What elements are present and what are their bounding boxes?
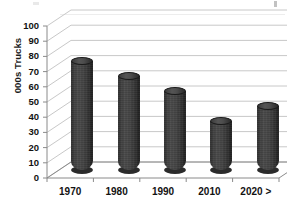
bar-texture [71,61,93,170]
y-tick-label: 40 [13,112,39,122]
plot-area: 1009080706050403020100 19701980199020102… [0,0,287,205]
x-tick-label: 2020 > [230,186,282,197]
bar-texture [257,106,279,170]
chart-container: 000s Trucks 1009080706050403020100 19701… [0,0,287,205]
y-tick-label: 10 [13,158,39,168]
bar-2010 [210,121,232,170]
x-tick-label: 2010 [183,186,235,197]
bar-1970 [71,61,93,170]
bar-top-ellipse [164,87,186,95]
bar-top-ellipse [71,57,93,65]
y-tick-label: 50 [13,97,39,107]
y-tick-label: 0 [13,173,39,183]
bar-1990 [164,91,186,170]
bar-top-ellipse [118,72,140,80]
x-tick-label: 1970 [44,186,96,197]
y-tick-label: 60 [13,82,39,92]
y-tick-label: 90 [13,36,39,46]
bar-1980 [118,76,140,170]
x-tick-label: 1990 [137,186,189,197]
gridline [47,25,287,41]
bar-texture [210,121,232,170]
bar-2020 [257,106,279,170]
gridline [47,10,287,26]
y-tick-label: 20 [13,143,39,153]
y-tick-label: 80 [13,51,39,61]
bar-texture [164,91,186,170]
grid-and-axes [0,0,287,205]
x-tick-label: 1980 [91,186,143,197]
bar-texture [118,76,140,170]
y-tick-label: 100 [13,21,39,31]
y-tick-label: 30 [13,127,39,137]
gridline [47,40,287,56]
y-tick-label: 70 [13,67,39,77]
